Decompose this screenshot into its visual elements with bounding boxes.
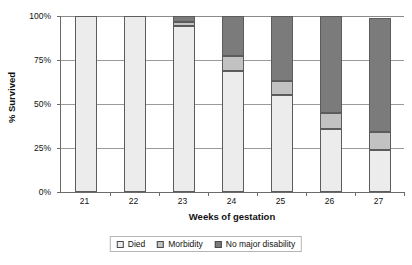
legend-item-label: Died <box>128 239 145 249</box>
x-axis-tick-label: 27 <box>374 196 383 206</box>
x-axis-title: Weeks of gestation <box>60 211 404 222</box>
y-axis-title-text: % Survived <box>7 72 18 123</box>
x-axis-tick-label: 24 <box>227 196 236 206</box>
bar-column[interactable] <box>75 16 97 192</box>
legend-swatch-icon <box>117 241 124 248</box>
bar-segment[interactable] <box>222 71 244 192</box>
bar-column[interactable] <box>222 16 244 192</box>
bar-segment[interactable] <box>320 113 342 129</box>
y-axis-tick-label: 75% <box>34 55 51 65</box>
legend-item-label: No major disability <box>226 239 295 249</box>
legend-item-label: Morbidity <box>168 239 202 249</box>
bar-segment[interactable] <box>320 16 342 113</box>
bar-column[interactable] <box>124 16 146 192</box>
chart-legend: DiedMorbidityNo major disability <box>110 236 302 252</box>
legend-item[interactable]: No major disability <box>215 239 295 249</box>
bar-column[interactable] <box>320 16 342 192</box>
x-axis-tick-label: 25 <box>276 196 285 206</box>
y-axis-tickmark <box>57 148 61 149</box>
bar-column[interactable] <box>173 16 195 192</box>
bar-segment[interactable] <box>271 16 293 81</box>
y-axis-tickmark <box>57 16 61 17</box>
y-axis-tick-labels: 100%75%50%25%0% <box>22 16 55 193</box>
y-axis-tick-label: 50% <box>34 99 51 109</box>
x-axis-tick-label: 26 <box>325 196 334 206</box>
bar-segment[interactable] <box>75 16 97 192</box>
bars-layer <box>61 16 404 192</box>
y-axis-title: % Survived <box>2 0 22 195</box>
y-axis-tick-label: 25% <box>34 143 51 153</box>
x-axis-tick-label: 22 <box>129 196 138 206</box>
bar-segment[interactable] <box>124 16 146 192</box>
x-axis-tick-label: 23 <box>178 196 187 206</box>
stacked-bar-chart: % Survived 100%75%50%25%0% 2122232425262… <box>0 0 412 265</box>
y-axis-tickmark <box>57 192 61 193</box>
x-axis-tick-label: 21 <box>80 196 89 206</box>
legend-swatch-icon <box>157 241 164 248</box>
x-axis-title-text: Weeks of gestation <box>189 211 275 222</box>
y-axis-tick-label: 100% <box>29 11 51 21</box>
bar-segment[interactable] <box>222 56 244 70</box>
bar-segment[interactable] <box>320 129 342 192</box>
y-axis-tickmark <box>57 60 61 61</box>
bar-segment[interactable] <box>271 95 293 192</box>
x-axis-tickmark <box>404 192 405 196</box>
bar-segment[interactable] <box>173 26 195 192</box>
legend-item[interactable]: Morbidity <box>157 239 202 249</box>
bar-segment[interactable] <box>369 18 391 132</box>
bar-segment[interactable] <box>369 150 391 192</box>
bar-segment[interactable] <box>222 16 244 56</box>
plot-area <box>60 16 404 193</box>
bar-column[interactable] <box>271 16 293 192</box>
bar-segment[interactable] <box>173 22 195 26</box>
legend-item[interactable]: Died <box>117 239 145 249</box>
x-axis-tick-labels: 21222324252627 <box>60 196 404 212</box>
bar-column[interactable] <box>369 16 391 192</box>
y-axis-tickmark <box>57 104 61 105</box>
bar-segment[interactable] <box>369 132 391 150</box>
legend-swatch-icon <box>215 241 222 248</box>
bar-segment[interactable] <box>271 81 293 95</box>
bar-segment[interactable] <box>173 16 195 22</box>
y-axis-tick-label: 0% <box>39 187 51 197</box>
